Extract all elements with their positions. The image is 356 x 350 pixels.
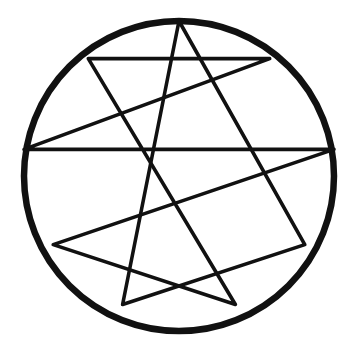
enneagram-figure-container (0, 0, 356, 350)
enneagram-diagram (0, 0, 356, 350)
background (0, 0, 356, 350)
